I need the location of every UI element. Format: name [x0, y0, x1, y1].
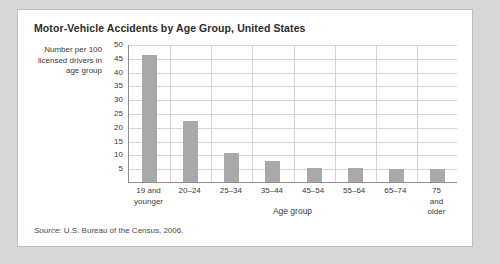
plot-frame [128, 45, 457, 183]
y-tick-label: 20 [109, 124, 123, 132]
y-tick-label: 45 [109, 55, 123, 63]
x-tick-label: 25–34 [220, 186, 242, 197]
gridline-vertical [335, 45, 336, 182]
figure-page: Motor-Vehicle Accidents by Age Group, Un… [0, 0, 500, 264]
gridline-vertical [170, 45, 171, 182]
x-tick-label: 65–74 [384, 186, 406, 197]
x-tick-label: 19 and younger [134, 186, 163, 207]
y-tick-label: 35 [109, 82, 123, 90]
bar [183, 121, 198, 182]
gridline-horizontal [129, 45, 457, 46]
gridline-vertical [376, 45, 377, 182]
gridline-horizontal [129, 155, 457, 156]
gridline-vertical [294, 45, 295, 182]
x-tick-label: 45–54 [302, 186, 324, 197]
y-axis-label: Number per 100 licensed drivers in age g… [26, 45, 102, 77]
y-tick-label: 30 [109, 96, 123, 104]
y-tick-label: 40 [109, 69, 123, 77]
source-keyword: Source: [34, 226, 62, 235]
plot-area: 5045403530252015105 [109, 45, 457, 183]
gridline-horizontal [129, 114, 457, 115]
gridline-vertical [211, 45, 212, 182]
figure-card: Motor-Vehicle Accidents by Age Group, Un… [17, 9, 473, 247]
bar [307, 168, 322, 182]
gridline-horizontal [129, 86, 457, 87]
bar [389, 169, 404, 182]
y-axis-ticks: 5045403530252015105 [109, 45, 123, 183]
x-axis-label: Age group [128, 206, 457, 216]
plot-inner [129, 45, 457, 182]
gridline-vertical [252, 45, 253, 182]
y-tick-label: 15 [109, 138, 123, 146]
source-text: U.S. Bureau of the Census, 2006. [64, 226, 184, 235]
x-tick-label: 20–24 [179, 186, 201, 197]
gridline-horizontal [129, 59, 457, 60]
bar [142, 55, 157, 182]
gridline-vertical [417, 45, 418, 182]
gridline-horizontal [129, 128, 457, 129]
x-tick-label: 55–64 [343, 186, 365, 197]
gridline-horizontal [129, 100, 457, 101]
y-tick-label: 10 [109, 151, 123, 159]
gridline-horizontal [129, 73, 457, 74]
source-note: Source: U.S. Bureau of the Census, 2006. [34, 226, 183, 235]
page-title: Motor-Vehicle Accidents by Age Group, Un… [34, 22, 306, 34]
y-tick-label: 50 [109, 41, 123, 49]
gridline-horizontal [129, 142, 457, 143]
gridline-horizontal [129, 169, 457, 170]
bar [348, 168, 363, 182]
bar [265, 161, 280, 182]
y-tick-label: 5 [109, 165, 123, 173]
x-tick-label: 35–44 [261, 186, 283, 197]
bar [224, 153, 239, 182]
y-tick-label: 25 [109, 110, 123, 118]
bar [430, 169, 445, 182]
